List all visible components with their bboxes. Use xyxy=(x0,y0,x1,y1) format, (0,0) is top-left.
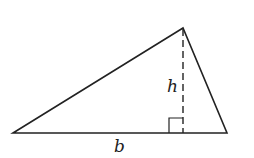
triangle-diagram: h b xyxy=(0,0,254,158)
triangle xyxy=(13,28,227,133)
height-label: h xyxy=(167,76,178,96)
base-label: b xyxy=(114,136,125,156)
right-angle-marker xyxy=(169,118,183,133)
